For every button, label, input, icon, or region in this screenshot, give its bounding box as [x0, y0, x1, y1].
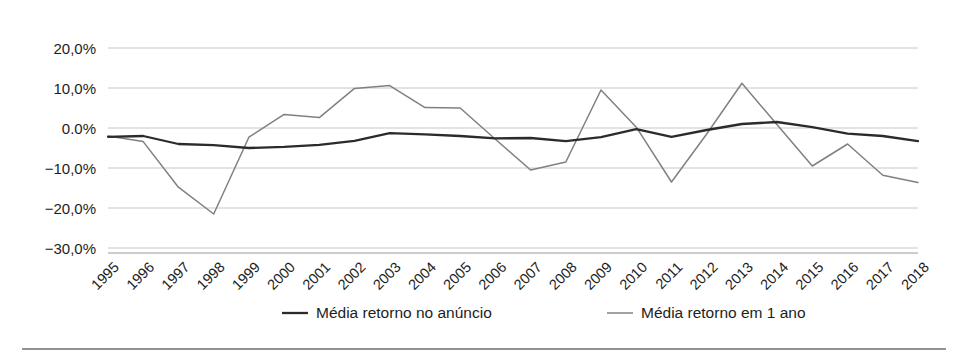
y-tick-label: 20,0% — [53, 40, 96, 57]
chart-figure: 20,0%10,0%0.0%−10,0%−20,0%−30,0% 1995199… — [0, 0, 967, 356]
y-tick-label: −20,0% — [45, 200, 96, 217]
y-tick-label: −30,0% — [45, 240, 96, 257]
y-tick-label: 10,0% — [53, 80, 96, 97]
y-tick-label: −10,0% — [45, 160, 96, 177]
legend-label-1[interactable]: Média retorno em 1 ano — [641, 304, 806, 321]
legend-label-0[interactable]: Média retorno no anúncio — [316, 304, 492, 321]
y-tick-label: 0.0% — [62, 120, 96, 137]
chart-background — [0, 0, 967, 356]
